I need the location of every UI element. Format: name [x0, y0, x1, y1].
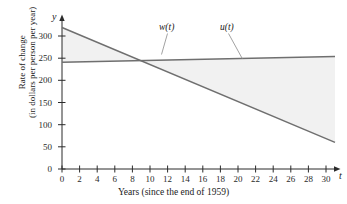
x-axis-name: t — [339, 171, 342, 181]
y-axis-arrowhead — [59, 15, 64, 22]
leader-line-u — [229, 34, 243, 60]
curve-label-u: u(t) — [220, 23, 234, 33]
chart-figure: y t 0 50 100 150 200 250 300 0 2 4 6 8 1… — [0, 0, 347, 204]
x-axis-title: Years (since the end of 1959) — [0, 188, 347, 198]
x-tick-label: 30 — [316, 175, 336, 184]
y-tick-label: 50 — [28, 143, 52, 152]
y-axis-title-line1: Rate of change — [17, 35, 27, 89]
leader-line-w — [162, 34, 168, 55]
curve-label-w: w(t) — [159, 23, 174, 33]
y-axis-title: Rate of change (in dollars per person pe… — [17, 0, 38, 137]
y-tick-label: 0 — [28, 165, 52, 174]
y-axis-title-line2: (in dollars per person per year) — [27, 0, 37, 137]
y-axis-name: y — [52, 12, 56, 22]
